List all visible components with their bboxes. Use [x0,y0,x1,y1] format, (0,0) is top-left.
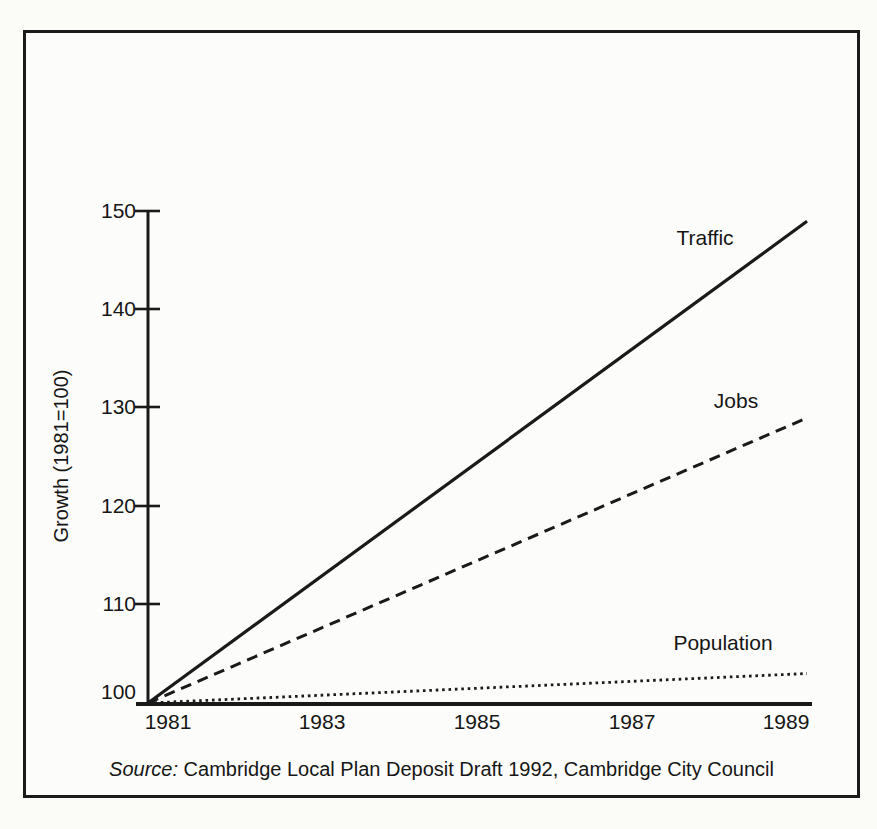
x-tick-label-1985: 1985 [445,711,509,733]
source-caption-prefix: Source: [109,758,178,780]
series-line-population [148,674,807,704]
x-tick-label-1987: 1987 [600,711,664,733]
series-label-traffic: Traffic [655,226,755,250]
y-tick-label-130: 130 [86,396,136,418]
scanned-figure-page: 100 110 120 130 140 150 1981 1983 1985 1… [0,0,877,829]
series-label-jobs: Jobs [691,389,781,413]
y-tick-label-120: 120 [86,495,136,517]
x-tick-label-1989: 1989 [754,711,818,733]
y-tick-label-110: 110 [86,593,136,615]
y-tick-label-100: 100 [86,681,136,703]
source-caption: Source: Cambridge Local Plan Deposit Dra… [23,757,860,781]
series-label-population: Population [648,631,798,655]
source-caption-text: Cambridge Local Plan Deposit Draft 1992,… [178,758,774,780]
y-axis-title: Growth (1981=100) [48,361,74,551]
x-tick-label-1981: 1981 [136,711,200,733]
y-tick-label-140: 140 [86,298,136,320]
y-tick-label-150: 150 [86,200,136,222]
x-tick-label-1983: 1983 [290,711,354,733]
